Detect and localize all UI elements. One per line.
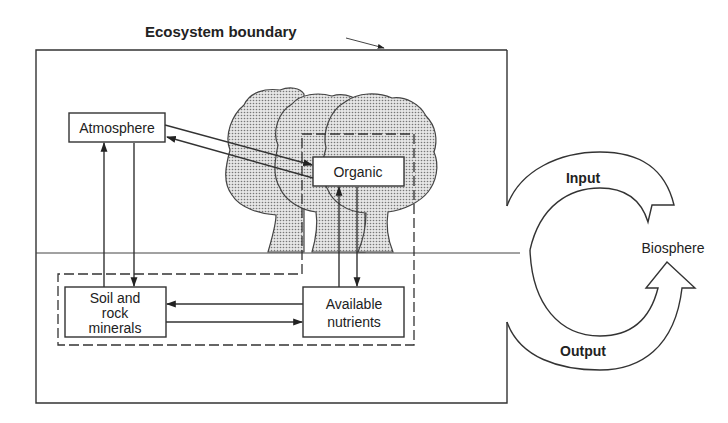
boundary-pointer-arrow xyxy=(346,38,384,48)
output-label: Output xyxy=(560,343,606,359)
nutrients-label-line2: nutrients xyxy=(327,314,381,330)
input-arrow xyxy=(507,152,674,250)
soil-label-line1: Soil and xyxy=(90,290,141,306)
biosphere-label: Biosphere xyxy=(641,240,704,256)
nutrient-cycle-diagram: Ecosystem boundary Atmosphere Organic So… xyxy=(0,0,728,423)
atmosphere-label: Atmosphere xyxy=(79,120,155,136)
soil-label-line2: rock xyxy=(102,305,129,321)
input-label: Input xyxy=(566,170,601,186)
ecosystem-boundary-label: Ecosystem boundary xyxy=(145,23,297,40)
organic-label: Organic xyxy=(333,164,382,180)
nutrients-label-line1: Available xyxy=(326,296,383,312)
biosphere-cycle xyxy=(507,152,695,370)
soil-label-line3: minerals xyxy=(89,320,142,336)
